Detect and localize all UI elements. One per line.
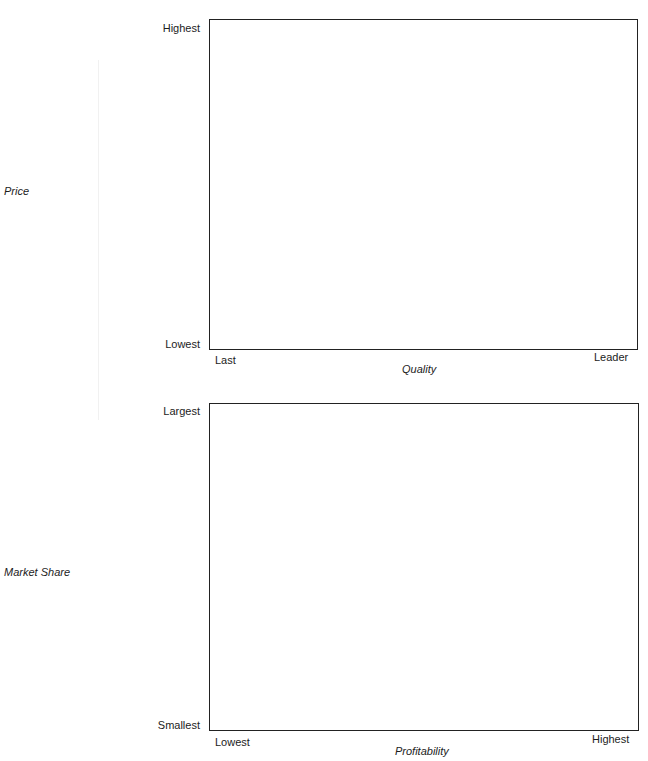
x-axis-min-label: Lowest [215,736,250,749]
y-axis-max-label: Largest [150,405,200,418]
y-axis-title: Market Share [4,566,70,579]
x-axis-title: Profitability [395,745,449,758]
plot-area [209,403,639,731]
market-share-profitability-chart: Market Share Largest Smallest Lowest Hig… [0,0,648,761]
x-axis-max-label: Highest [592,733,629,746]
y-axis-min-label: Smallest [150,719,200,732]
